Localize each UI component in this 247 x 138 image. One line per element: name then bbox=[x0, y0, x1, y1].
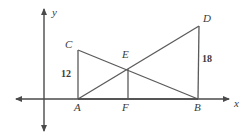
point-label-A: A bbox=[74, 102, 81, 113]
point-label-F: F bbox=[122, 102, 129, 113]
segment-CB bbox=[78, 50, 198, 99]
y-axis-label: y bbox=[52, 7, 57, 18]
segment-DB bbox=[198, 26, 199, 99]
point-label-C: C bbox=[65, 39, 72, 50]
segment-AD bbox=[78, 26, 199, 99]
geometry-figure: x y A B C D E F 12 18 bbox=[0, 0, 247, 138]
x-axis-label: x bbox=[234, 98, 239, 109]
measurement-label-18: 18 bbox=[202, 54, 212, 64]
point-label-B: B bbox=[194, 102, 201, 113]
point-label-E: E bbox=[122, 49, 129, 60]
point-label-D: D bbox=[203, 13, 211, 24]
measurement-label-12: 12 bbox=[61, 69, 71, 79]
